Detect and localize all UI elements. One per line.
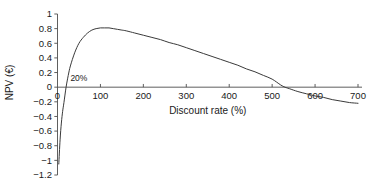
x-tick-label: 300 [178, 90, 194, 101]
y-axis-title: NPV (€) [4, 65, 15, 101]
y-tick-label: 0.2 [39, 67, 52, 78]
y-tick-label: −0.2 [33, 96, 52, 107]
y-tick-label: −1.2 [33, 169, 52, 180]
x-tick-label: 500 [264, 90, 280, 101]
y-tick-label: 0.8 [39, 23, 52, 34]
y-tick-label: −0.6 [33, 125, 52, 136]
chart-annotations: 20% [70, 73, 87, 83]
x-tick-label: 100 [92, 90, 108, 101]
x-axis-title: Discount rate (%) [169, 105, 246, 116]
y-tick-label: 0 [47, 81, 52, 92]
x-tick-label: 700 [350, 90, 366, 101]
y-tick-label: −0.8 [33, 140, 52, 151]
x-axis-tick-labels: 0100200300400500600700 [55, 90, 366, 101]
x-tick-label: 0 [55, 90, 60, 101]
x-axis-tick-marks [100, 84, 358, 87]
chart-canvas: −1.2−1−0.8−0.6−0.4−0.200.20.40.60.81 010… [0, 0, 380, 194]
y-tick-label: −1 [41, 155, 52, 166]
y-tick-label: −0.4 [33, 111, 52, 122]
y-tick-label: 0.6 [39, 38, 52, 49]
x-tick-label: 600 [307, 90, 323, 101]
y-axis-tick-labels: −1.2−1−0.8−0.6−0.4−0.200.20.40.60.81 [33, 8, 52, 180]
x-tick-label: 200 [135, 90, 151, 101]
y-tick-label: 0.4 [39, 52, 52, 63]
npv-profile-chart: −1.2−1−0.8−0.6−0.4−0.200.20.40.60.81 010… [0, 0, 380, 194]
y-tick-label: 1 [47, 8, 52, 19]
irr-annotation-label: 20% [70, 73, 87, 83]
x-tick-label: 400 [221, 90, 237, 101]
